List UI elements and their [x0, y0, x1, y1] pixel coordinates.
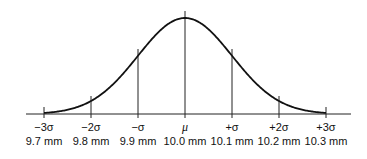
tick-symbol-label: +3σ — [296, 121, 356, 134]
tick-value-label: 10.3 mm — [296, 135, 356, 148]
